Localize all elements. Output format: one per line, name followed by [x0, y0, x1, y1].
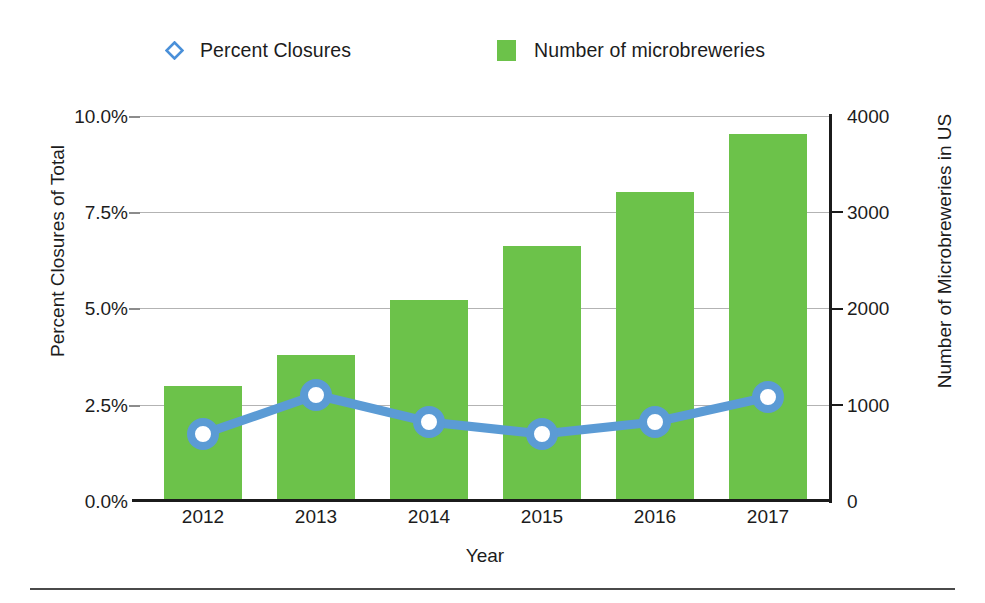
datapoint-2014[interactable]	[417, 410, 441, 434]
chart-legend: Percent Closures Number of microbrewerie…	[0, 32, 985, 68]
x-ticklabel-2013: 2013	[256, 506, 376, 528]
x-ticklabel-2016: 2016	[595, 506, 715, 528]
line-series-percent-closures	[140, 116, 830, 501]
legend-item-percent-closures[interactable]: Percent Closures	[165, 32, 351, 68]
right-axis-ticklabels: 4000 3000 2000 1000 0	[847, 0, 927, 603]
diamond-outline-icon	[165, 41, 184, 60]
datapoint-2013[interactable]	[304, 383, 328, 407]
legend-label-microbreweries: Number of microbreweries	[534, 39, 765, 62]
x-ticklabel-2015: 2015	[482, 506, 602, 528]
left-tick-mark-7-5	[129, 212, 140, 214]
x-axis-title: Year	[140, 545, 830, 567]
x-ticklabel-2017: 2017	[708, 506, 828, 528]
right-tick-mark-2000	[832, 308, 843, 310]
left-tick-mark-5	[129, 308, 140, 310]
left-tick-mark-10	[129, 116, 140, 118]
x-ticklabel-2014: 2014	[369, 506, 489, 528]
plot-area	[140, 116, 830, 501]
right-tick-mark-1000	[832, 404, 843, 406]
bottom-divider	[30, 588, 955, 590]
x-axis-line	[132, 499, 832, 502]
right-ticklabel-2000: 2000	[847, 298, 917, 320]
legend-label-percent-closures: Percent Closures	[200, 39, 351, 62]
datapoint-2015[interactable]	[530, 422, 554, 446]
left-tick-mark-2-5	[129, 405, 140, 407]
chart-figure: Percent Closures Number of microbrewerie…	[0, 0, 985, 603]
datapoint-2017[interactable]	[756, 385, 780, 409]
left-axis-title: Percent Closures of Total	[47, 101, 69, 401]
right-ticklabel-4000: 4000	[847, 106, 917, 128]
right-ticklabel-1000: 1000	[847, 395, 917, 417]
x-ticklabel-2012: 2012	[143, 506, 263, 528]
legend-item-microbreweries[interactable]: Number of microbreweries	[497, 32, 765, 68]
right-ticklabel-0: 0	[847, 491, 917, 513]
datapoint-2016[interactable]	[643, 410, 667, 434]
right-axis-title: Number of Microbreweries in US	[934, 81, 956, 421]
square-swatch-icon	[497, 40, 516, 61]
left-ticklabel-0: 0.0%	[8, 491, 128, 513]
right-ticklabel-3000: 3000	[847, 202, 917, 224]
datapoint-2012[interactable]	[191, 422, 215, 446]
right-tick-mark-3000	[832, 211, 843, 213]
